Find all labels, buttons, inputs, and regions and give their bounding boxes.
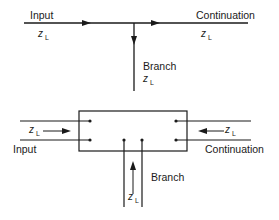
continuation-arrow-icon bbox=[151, 20, 160, 26]
svg-text:L: L bbox=[135, 197, 139, 204]
top-junction: Input Continuation Branch z L z L z L bbox=[24, 9, 255, 91]
bottom-input-impedance: z L bbox=[28, 124, 40, 137]
network-box bbox=[79, 111, 187, 151]
svg-text:z: z bbox=[127, 191, 133, 202]
branch-arrow-icon bbox=[130, 161, 136, 170]
bottom-input-label: Input bbox=[13, 143, 36, 155]
svg-text:z: z bbox=[28, 124, 34, 135]
bottom-network: Input Continuation Branch z L z L z L bbox=[13, 111, 264, 207]
svg-text:L: L bbox=[208, 34, 212, 41]
svg-text:z: z bbox=[224, 124, 230, 135]
terminal-dot bbox=[88, 119, 91, 122]
bottom-continuation-impedance: z L bbox=[224, 124, 236, 137]
svg-text:L: L bbox=[45, 34, 49, 41]
top-input-impedance: z L bbox=[37, 28, 49, 41]
top-continuation-impedance: z L bbox=[200, 28, 212, 41]
top-branch-label: Branch bbox=[143, 60, 176, 72]
terminal-dot bbox=[88, 138, 91, 141]
continuation-arrow-icon bbox=[198, 128, 207, 134]
top-continuation-label: Continuation bbox=[196, 9, 255, 21]
svg-text:z: z bbox=[37, 28, 43, 39]
input-arrow-icon bbox=[62, 128, 71, 134]
svg-text:z: z bbox=[142, 73, 148, 84]
branch-arrow-icon bbox=[131, 36, 137, 45]
bottom-branch-label: Branch bbox=[151, 171, 184, 183]
terminal-dot bbox=[174, 138, 177, 141]
input-arrow-icon bbox=[82, 20, 91, 26]
terminal-dot bbox=[122, 138, 125, 141]
svg-text:L: L bbox=[150, 79, 154, 86]
top-input-label: Input bbox=[30, 9, 53, 21]
t-junction-diagram: Input Continuation Branch z L z L z L bbox=[0, 0, 279, 220]
terminal-dot bbox=[174, 119, 177, 122]
svg-text:L: L bbox=[36, 130, 40, 137]
bottom-continuation-label: Continuation bbox=[205, 143, 264, 155]
svg-text:z: z bbox=[200, 28, 206, 39]
top-branch-impedance: z L bbox=[142, 73, 154, 86]
terminal-dot bbox=[140, 138, 143, 141]
svg-text:L: L bbox=[232, 130, 236, 137]
